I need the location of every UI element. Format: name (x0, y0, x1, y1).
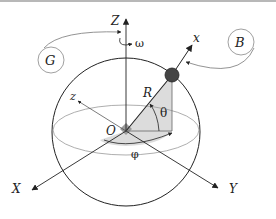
label-phi: φ (131, 148, 139, 161)
label-theta: θ (160, 106, 167, 120)
label-G: G (45, 53, 55, 68)
ball-body (165, 68, 179, 82)
label-B: B (234, 35, 245, 50)
label-R: R (142, 86, 152, 100)
label-x: x (193, 31, 200, 45)
label-omega: ω (135, 37, 144, 50)
X-axis (32, 131, 126, 190)
B-connector-arrow (186, 48, 254, 68)
label-X: X (11, 182, 21, 196)
label-z: z (69, 90, 76, 103)
Y-axis (126, 131, 218, 188)
label-Z: Z (110, 14, 120, 28)
label-O: O (106, 124, 116, 138)
G-connector-arrow (44, 32, 121, 48)
spherical-coordinates-diagram: Z ω G B x z R θ O φ X Y (0, 0, 276, 219)
label-Y: Y (229, 182, 238, 196)
